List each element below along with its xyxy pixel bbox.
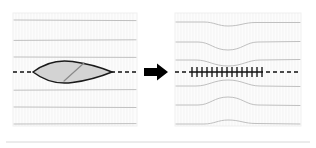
skin-crease-2 bbox=[14, 40, 136, 41]
skin-crease-5 bbox=[14, 107, 136, 108]
arrow-right-icon bbox=[144, 64, 168, 81]
panel-after bbox=[175, 13, 301, 126]
skin-crease-1 bbox=[14, 20, 136, 21]
panel-after-hatch bbox=[178, 13, 298, 126]
panel-before bbox=[13, 13, 138, 126]
transition-arrow bbox=[144, 64, 168, 81]
figure-root: Wound closure with interrupted sutures bbox=[0, 0, 316, 148]
skin-crease-4 bbox=[14, 90, 136, 91]
suture-ticks bbox=[192, 67, 262, 77]
wound-closure-diagram bbox=[0, 0, 316, 148]
